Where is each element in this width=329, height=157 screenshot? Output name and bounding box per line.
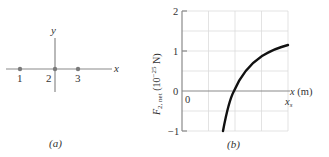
particle-2-label: 2 xyxy=(46,72,52,84)
y-tick-2: 2 xyxy=(173,6,178,17)
particle-2-dot xyxy=(53,67,57,71)
particle-3-label: 3 xyxy=(75,72,81,84)
y-tick-neg1: −1 xyxy=(168,126,179,137)
particle-3-dot xyxy=(76,67,80,71)
x-origin-label: 0 xyxy=(185,94,190,105)
x-axis-title: x (m) xyxy=(289,86,313,98)
y-tick-0: 0 xyxy=(173,86,178,97)
y-axis-title: F2, net (10−25 N) xyxy=(150,53,164,116)
panel-b-chart: 2 1 0 −1 0 x (m) xs F2, net (10−25 N) (b… xyxy=(150,6,313,151)
figure: x y 1 2 3 (a) xyxy=(0,0,329,157)
particle-1-label: 1 xyxy=(17,72,23,84)
panel-a-x-label: x xyxy=(113,62,119,74)
panel-a-diagram: x y 1 2 3 (a) xyxy=(6,24,119,150)
force-curve xyxy=(223,45,288,131)
chart-grid xyxy=(182,11,288,131)
y-tick-1: 1 xyxy=(173,46,178,57)
panel-b-caption: (b) xyxy=(227,138,240,151)
particle-1-dot xyxy=(18,67,22,71)
panel-a-caption: (a) xyxy=(49,137,62,150)
panel-a-y-label: y xyxy=(50,24,56,36)
